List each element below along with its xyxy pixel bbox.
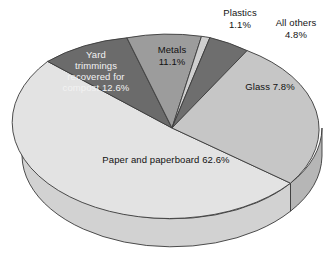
yard-trimmings-label-line4: compost 12.6% [63,82,130,93]
all-others-label-line1: All others [264,17,328,29]
paper-label: Paper and paperboard 62.6% [102,154,230,165]
all-others-callout-label: All others 4.8% [264,17,328,40]
yard-trimmings-label-line1: Yard [86,49,106,60]
plastics-label-line1: Plastics [214,7,266,19]
metals-label-line1: Metals [158,44,187,55]
metals-label-line2: 11.1% [159,56,186,67]
glass-label: Glass 7.8% [245,81,295,92]
pie-chart: Yard trimmings recovered for compost 12.… [0,0,336,263]
plastics-label-line2: 1.1% [214,19,266,31]
plastics-callout-label: Plastics 1.1% [214,7,266,30]
yard-trimmings-label-line2: trimmings [75,60,117,71]
all-others-label-line2: 4.8% [264,29,328,41]
yard-trimmings-label-line3: recovered for [67,71,124,82]
